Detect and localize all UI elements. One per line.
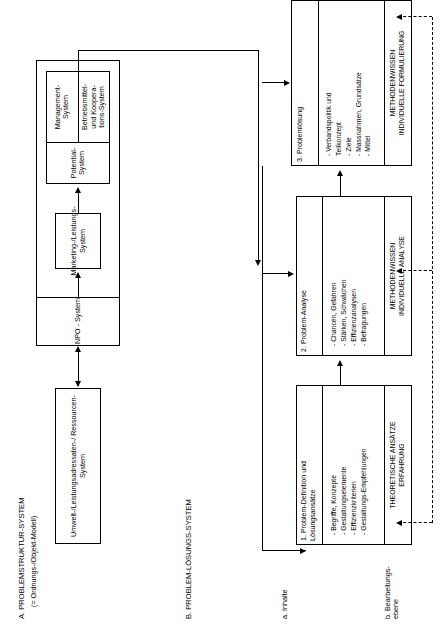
box-step1-title: 1. Problem-Definition und Lösungsansätze <box>300 389 318 541</box>
box-npo-system-label: NPO - System <box>62 298 94 344</box>
connector-into-step2-v <box>262 273 290 274</box>
box-marketing-system-label: Marketing-/Leistungs- System <box>69 206 87 275</box>
step2-title-divider <box>322 196 323 356</box>
box-step3-footer: METHODENWISSEN INDIVIDUELLE FORMULIERUNG <box>384 0 412 166</box>
arrow-into-step3 <box>284 80 290 86</box>
arrow-env-npo-left <box>75 381 81 387</box>
dashed-feedback-mid-riser <box>398 270 432 271</box>
row-label-inhalte: a. Inhalte <box>281 539 289 619</box>
box-management-system-label: Management- System <box>46 71 78 143</box>
connector-into-step3-v <box>262 82 286 83</box>
connector-structure-to-analysis <box>78 51 79 71</box>
box-operations-system-label: Betriebsmittel- und Koopera- tions-Syste… <box>78 71 110 143</box>
arrow-step1-entry <box>300 548 306 554</box>
step3-title-divider <box>318 0 319 166</box>
arrow-dashed-into-step2 <box>396 268 402 274</box>
dashed-feedback-line <box>432 17 433 523</box>
section-a-subtitle: (= Ordnungs-/Objekt-Modell) <box>30 347 38 607</box>
box-step2-footer: METHODENWISSEN INDIVIDUELLE ANALYSE <box>384 196 412 356</box>
box-step2-title: 2. Problem-Analyse <box>300 200 309 352</box>
connector-structure-to-analysis-v <box>78 50 258 51</box>
box-step2-bullets: - Chancen, Gefahren - Stärken, Schwächen… <box>329 200 368 346</box>
connector-structure-to-analysis-h2 <box>258 50 259 260</box>
arrow-into-step2-left <box>255 260 261 266</box>
arrow-into-step2 <box>288 271 294 277</box>
section-a-title: A. PROBLEMSTRUKTUR-SYSTEM <box>18 359 27 619</box>
box-environment-system-label: Umwelt-/Leistungsadressaten-/ Ressourcen… <box>69 393 87 539</box>
box-step3-title: 3. Problemlösung <box>296 4 305 162</box>
box-step3-bullets: - Verbandspolitik und Teilkonzept - Ziel… <box>324 4 373 156</box>
row-label-bearbeitungsebene: b. Bearbeitungs- ebene <box>384 539 401 619</box>
arrow-env-npo-right <box>75 346 81 352</box>
arrow-dashed-into-step1 <box>396 520 402 526</box>
step1-title-divider <box>322 385 323 545</box>
box-potential-system-label: Potential-System <box>46 143 110 183</box>
dashed-feedback-right-riser <box>398 16 432 17</box>
arrow-step1-step2 <box>337 360 343 366</box>
arrow-dashed-into-step3 <box>396 14 402 20</box>
connector-step1-step3-h <box>262 166 263 551</box>
arrow-marketing-potential <box>75 187 81 193</box>
box-marketing-system: Marketing-/Leistungs- System <box>55 213 101 269</box>
box-step1-bullets: - Begriffe, Konzepte - Gestaltungselemen… <box>329 389 368 535</box>
section-b-title: B. PROBLEM-LÖSUNGS-SYSTEM <box>185 359 194 619</box>
arrow-step2-step3 <box>337 170 343 176</box>
diagram-canvas: A. PROBLEMSTRUKTUR-SYSTEM (= Ordnungs-/O… <box>0 0 448 631</box>
box-environment-system: Umwelt-/Leistungsadressaten-/ Ressourcen… <box>55 388 101 544</box>
dashed-feedback-left-riser <box>398 522 432 523</box>
